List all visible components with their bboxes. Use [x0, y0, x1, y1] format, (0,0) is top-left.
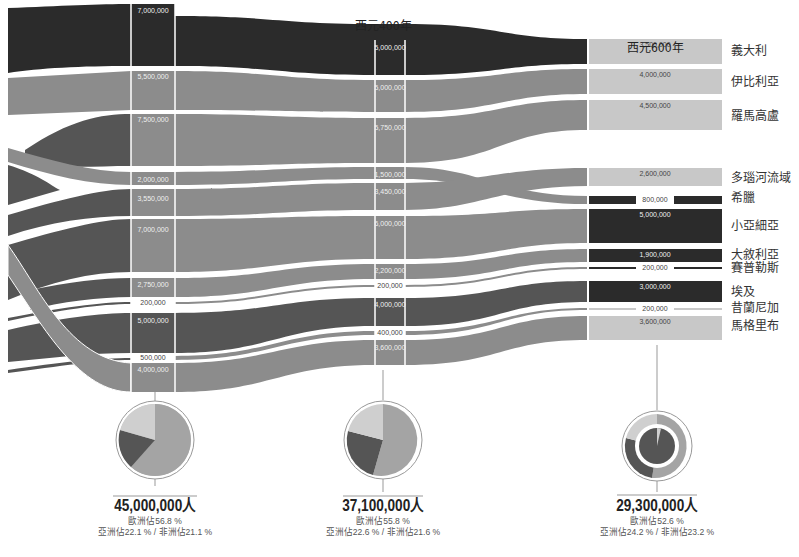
value-label: 5,000,000: [639, 211, 670, 218]
region-label-asia-minor: 小亞細亞: [731, 219, 779, 233]
value-label: 4,000,000: [137, 366, 168, 373]
flow-left-iberia: [8, 71, 131, 115]
region-label-egypt: 埃及: [731, 285, 755, 299]
value-label: 200,000: [377, 282, 402, 289]
population-sankey-chart: 7,000,000 5,500,000 7,500,000 2,000,000 …: [0, 0, 799, 557]
region-label-cyrenaica: 昔蘭尼加: [731, 301, 779, 315]
total-200: 45,000,000人 歐洲佔56.8 % 亞洲佔22.1 % / 非洲佔21.…: [55, 497, 255, 537]
flow-asia-minor: [175, 216, 375, 272]
value-label: 800,000: [642, 196, 667, 203]
flows-left: [8, 4, 131, 392]
value-label: 200,000: [140, 299, 165, 306]
region-label-gaul: 羅馬高盧: [731, 109, 779, 123]
pie-400: [343, 370, 423, 496]
total-population: 45,000,000人: [70, 497, 240, 515]
value-label: 2,750,000: [137, 281, 168, 288]
value-label: 3,450,000: [374, 188, 405, 195]
value-label: 2,200,000: [374, 267, 405, 274]
total-population: 29,300,000人: [572, 497, 742, 515]
flows-200-400: [175, 16, 375, 392]
region-label-maghreb: 馬格里布: [731, 319, 779, 333]
region-label-syria: 大敘利亞: [731, 248, 779, 262]
value-label: 1,900,000: [639, 251, 670, 258]
asia-africa-share: 亞洲佔22.6 % / 非洲佔21.6 %: [293, 526, 473, 537]
total-400: 37,100,000人 歐洲佔55.8 % 亞洲佔22.6 % / 非洲佔21.…: [283, 497, 483, 537]
column-600: [589, 39, 722, 340]
region-label-italy: 義大利: [731, 44, 767, 58]
value-label: 1,500,000: [374, 171, 405, 178]
value-label: 5,500,000: [137, 73, 168, 80]
value-label: 5,750,000: [374, 124, 405, 131]
flow-gaul: [175, 114, 375, 166]
europe-share: 歐洲佔55.8 %: [293, 515, 473, 526]
flow-italy-2: [405, 24, 587, 75]
flow-left-italy: [8, 4, 131, 73]
value-label: 3,600,000: [639, 318, 670, 325]
value-label: 500,000: [140, 354, 165, 361]
region-label-iberia: 伊比利亞: [731, 75, 779, 89]
europe-share: 歐洲佔52.6 %: [567, 515, 747, 526]
europe-share: 歐洲佔56.8 %: [65, 515, 245, 526]
flow-italy: [175, 16, 375, 75]
pie-200: [113, 392, 197, 496]
value-label: 5,000,000: [137, 317, 168, 324]
region-label-danube: 多瑙河流域: [731, 171, 791, 185]
region-label-greece: 希臘: [731, 191, 755, 205]
value-label: 2,000,000: [137, 176, 168, 183]
value-label: 7,500,000: [137, 116, 168, 123]
total-population: 37,100,000人: [298, 497, 468, 515]
value-label: 5,000,000: [374, 44, 405, 51]
value-label: 4,000,000: [639, 71, 670, 78]
value-label: 400,000: [377, 329, 402, 336]
era-title-400: 西元400年: [355, 16, 412, 33]
value-label: 6,000,000: [374, 220, 405, 227]
value-label: 7,000,000: [137, 226, 168, 233]
asia-africa-share: 亞洲佔22.1 % / 非洲佔21.1 %: [65, 526, 245, 537]
value-label: 3,000,000: [639, 283, 670, 290]
flow-iberia: [175, 71, 375, 112]
flow-danube: [175, 167, 375, 185]
asia-africa-share: 亞洲佔24.2 % / 非洲佔23.2 %: [567, 526, 747, 537]
region-label-cyprus: 賽普勒斯: [731, 261, 779, 275]
value-label: 5,000,000: [374, 84, 405, 91]
value-label: 7,000,000: [137, 7, 168, 14]
value-label: 200,000: [642, 305, 667, 312]
flow-greece: [175, 183, 375, 216]
value-label: 200,000: [642, 264, 667, 271]
value-label: 2,600,000: [639, 170, 670, 177]
total-600: 29,300,000人 歐洲佔52.6 % 亞洲佔24.2 % / 非洲佔23.…: [557, 497, 757, 537]
value-label: 3,550,000: [137, 195, 168, 202]
value-label: 4,500,000: [639, 102, 670, 109]
era-title-600: 西元600年: [627, 38, 684, 55]
pie-600: [617, 345, 697, 495]
value-label: 3,600,000: [374, 344, 405, 351]
flows-400-600: [405, 24, 587, 365]
value-label: 4,000,000: [374, 301, 405, 308]
